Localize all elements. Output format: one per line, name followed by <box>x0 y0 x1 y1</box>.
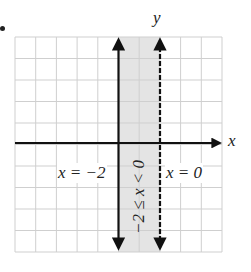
inequality-graph <box>0 0 251 272</box>
line-label-x-0: x = 0 <box>165 163 203 183</box>
y-axis-label: y <box>153 8 161 28</box>
x-axis-label: x <box>228 131 236 151</box>
inequality-label: −2 ≤ x < 0 <box>129 160 149 234</box>
line-label-x-neg2: x = −2 <box>57 163 107 183</box>
